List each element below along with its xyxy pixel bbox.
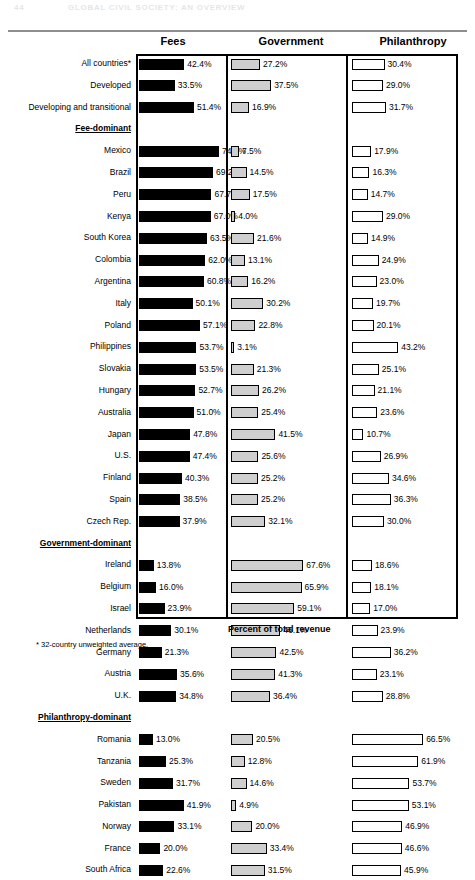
row-label: Austria — [0, 668, 131, 679]
bar-value-fees: 33.1% — [177, 821, 201, 832]
bar-value-government: 27.2% — [263, 59, 287, 70]
bar-track-government: 30.2% — [231, 298, 348, 309]
bar-track-philanthropy: 19.7% — [352, 298, 469, 309]
bar-fees — [139, 407, 194, 418]
bar-value-philanthropy: 23.9% — [381, 625, 405, 636]
bar-track-government: 33.4% — [231, 843, 348, 854]
bar-value-fees: 53.7% — [199, 342, 223, 353]
header-divider — [8, 30, 467, 32]
bar-philanthropy — [352, 189, 368, 200]
chart-row: U.S.47.4%25.6%26.9% — [0, 446, 475, 468]
bar-value-philanthropy: 34.6% — [392, 473, 416, 484]
bar-value-fees: 23.9% — [168, 603, 192, 614]
row-label: Slovakia — [0, 363, 131, 374]
bar-track-philanthropy: 46.9% — [352, 821, 469, 832]
bar-fees — [139, 364, 196, 375]
bar-track-fees: 53.7% — [139, 342, 224, 353]
bar-fees — [139, 189, 211, 200]
bar-value-government: 32.1% — [268, 516, 292, 527]
bar-fees — [139, 255, 205, 266]
bar-value-philanthropy: 17.0% — [373, 603, 397, 614]
bar-track-government: 13.1% — [231, 255, 348, 266]
bar-track-government: 41.3% — [231, 669, 348, 680]
bar-track-philanthropy: 53.7% — [352, 778, 469, 789]
bar-value-fees: 22.6% — [166, 865, 190, 876]
bar-value-government: 12.8% — [248, 756, 272, 767]
bar-track-government: 27.2% — [231, 59, 348, 70]
bar-value-philanthropy: 23.0% — [380, 276, 404, 287]
row-label: Philanthropy-dominant — [0, 712, 131, 723]
bar-government — [231, 494, 258, 505]
bar-value-philanthropy: 10.7% — [366, 429, 390, 440]
bar-fees — [139, 429, 190, 440]
bar-track-philanthropy: 23.9% — [352, 625, 469, 636]
bar-fees — [139, 298, 193, 309]
row-label: Finland — [0, 472, 131, 483]
bar-fees — [139, 582, 156, 593]
bar-value-government: 21.6% — [257, 233, 281, 244]
bar-value-fees: 47.4% — [193, 451, 217, 462]
chart-row: Colombia62.0%13.1%24.9% — [0, 250, 475, 272]
bar-value-philanthropy: 53.7% — [412, 778, 436, 789]
column-header-fees: Fees — [113, 35, 233, 47]
bar-government — [231, 298, 263, 309]
bar-track-fees: 30.1% — [139, 625, 224, 636]
bar-value-government: 42.5% — [279, 647, 303, 658]
bar-track-government: 21.6% — [231, 233, 348, 244]
bar-track-philanthropy: 45.9% — [352, 865, 469, 876]
bar-value-government: 7.5% — [242, 146, 261, 157]
bar-value-government: 25.6% — [261, 451, 285, 462]
bar-fees — [139, 560, 154, 571]
bar-value-government: 14.6% — [250, 778, 274, 789]
row-label: Brazil — [0, 167, 131, 178]
bar-value-philanthropy: 14.7% — [371, 189, 395, 200]
chart-row: Ireland13.8%67.6%18.6% — [0, 555, 475, 577]
bar-philanthropy — [352, 821, 402, 832]
bar-track-government: 32.1% — [231, 516, 348, 527]
bar-value-fees: 42.4% — [187, 59, 211, 70]
bar-track-fees: 13.8% — [139, 560, 224, 571]
bar-track-government: 22.8% — [231, 320, 348, 331]
bar-track-fees: 40.3% — [139, 473, 224, 484]
bar-government — [231, 407, 258, 418]
bar-value-government: 37.5% — [274, 80, 298, 91]
bar-value-government: 25.2% — [261, 473, 285, 484]
bar-fees — [139, 473, 182, 484]
bar-track-philanthropy: 29.0% — [352, 80, 469, 91]
bar-track-fees: 53.5% — [139, 364, 224, 375]
row-label: Colombia — [0, 254, 131, 265]
bar-value-government: 14.5% — [250, 167, 274, 178]
bar-value-philanthropy: 28.8% — [386, 691, 410, 702]
bar-value-philanthropy: 25.1% — [382, 364, 406, 375]
bar-value-philanthropy: 20.1% — [377, 320, 401, 331]
bar-philanthropy — [352, 603, 370, 614]
row-label: Argentina — [0, 276, 131, 287]
bar-value-philanthropy: 14.9% — [371, 233, 395, 244]
bar-fees — [139, 167, 213, 178]
row-label: Ireland — [0, 559, 131, 570]
bar-government — [231, 778, 247, 789]
bar-track-fees: 33.5% — [139, 80, 224, 91]
bar-value-fees: 62.0% — [208, 255, 232, 266]
bar-value-fees: 51.0% — [197, 407, 221, 418]
bar-government — [231, 451, 258, 462]
bar-track-government: 7.5% — [231, 146, 348, 157]
bar-track-government: 12.8% — [231, 756, 348, 767]
bar-track-fees: 51.0% — [139, 407, 224, 418]
bar-track-philanthropy: 46.6% — [352, 843, 469, 854]
bar-track-fees: 38.5% — [139, 494, 224, 505]
bar-track-fees: 41.9% — [139, 800, 224, 811]
bar-track-philanthropy: 28.8% — [352, 691, 469, 702]
bar-fees — [139, 603, 165, 614]
bar-government — [231, 865, 265, 876]
bar-track-philanthropy: 18.1% — [352, 582, 469, 593]
bar-track-fees: 74.7% — [139, 146, 224, 157]
chart-row: Czech Rep.37.9%32.1%30.0% — [0, 512, 475, 534]
bar-government — [231, 189, 250, 200]
bar-government — [231, 80, 271, 91]
bar-track-fees: 34.8% — [139, 691, 224, 702]
bar-fees — [139, 625, 171, 636]
chart-row: Australia51.0%25.4%23.6% — [0, 403, 475, 425]
bar-track-fees: 33.1% — [139, 821, 224, 832]
bar-value-government: 30.2% — [266, 298, 290, 309]
